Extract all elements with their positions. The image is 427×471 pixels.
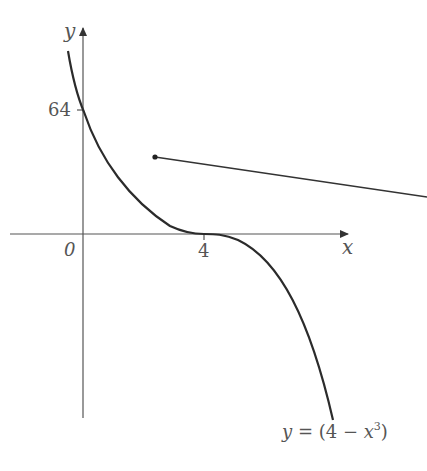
x-axis-label: x [342, 235, 353, 259]
pointer-line [155, 157, 427, 197]
y-axis-label: y [63, 19, 76, 43]
y-intercept-label: 64 [48, 99, 71, 120]
curve-equation-label: y = (4 − x3) [281, 420, 388, 442]
origin-label: 0 [64, 239, 75, 260]
cubic-curve [68, 51, 333, 420]
x-intercept-label: 4 [198, 240, 209, 261]
pointer-dot [152, 154, 157, 159]
cubic-graph: y x 0 64 4 y = (4 − x3) [0, 0, 427, 471]
